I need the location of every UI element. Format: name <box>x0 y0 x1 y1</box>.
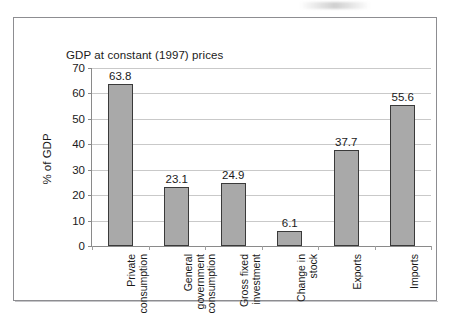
bar[interactable]: 6.1 <box>277 231 302 247</box>
bar[interactable]: 23.1 <box>164 187 189 246</box>
bar-value-label: 6.1 <box>282 217 298 229</box>
scan-artifact-smudge <box>300 2 370 9</box>
bar-value-label: 63.8 <box>109 70 131 82</box>
x-category-label: Private consumption <box>126 254 149 321</box>
gridline <box>92 68 431 69</box>
y-axis-line <box>91 68 92 246</box>
gridline <box>92 170 431 171</box>
y-tick-mark <box>88 221 92 222</box>
y-tick-label: 50 <box>72 113 85 125</box>
x-category-label: Change in stock <box>296 254 319 321</box>
x-category-label: Gross fixed investment <box>239 254 262 321</box>
y-tick-mark <box>88 195 92 196</box>
y-axis-title: % of GDP <box>41 24 55 114</box>
gridline <box>92 221 431 222</box>
bar[interactable]: 24.9 <box>221 183 246 246</box>
bar-value-label: 37.7 <box>335 136 357 148</box>
x-tick-mark <box>375 246 376 250</box>
x-tick-mark <box>205 246 206 250</box>
gridline <box>92 195 431 196</box>
y-tick-label: 10 <box>72 215 85 227</box>
y-tick-label: 40 <box>72 138 85 150</box>
x-tick-mark <box>318 246 319 250</box>
x-category-label: Exports <box>352 254 364 321</box>
y-tick-label: 60 <box>72 87 85 99</box>
y-tick-mark <box>88 144 92 145</box>
chart-figure-frame: GDP at constant (1997) prices % of GDP 7… <box>13 17 437 301</box>
bar-value-label: 23.1 <box>166 173 188 185</box>
gridline <box>92 93 431 94</box>
y-tick-mark <box>88 119 92 120</box>
y-tick-mark <box>88 68 92 69</box>
y-tick-mark <box>88 170 92 171</box>
plot-area: 706050403020100 63.823.124.96.137.755.6 … <box>92 68 431 246</box>
y-axis-title-text: % of GDP <box>41 114 53 204</box>
bar-value-label: 24.9 <box>222 169 244 181</box>
y-tick-label: 70 <box>72 62 85 74</box>
x-tick-mark <box>149 246 150 250</box>
y-tick-label: 0 <box>79 240 85 252</box>
gridline <box>92 144 431 145</box>
y-tick-label: 20 <box>72 189 85 201</box>
bar[interactable]: 55.6 <box>390 105 415 246</box>
gridline <box>92 119 431 120</box>
bar-value-label: 55.6 <box>392 91 414 103</box>
x-tick-mark <box>431 246 432 250</box>
bar[interactable]: 37.7 <box>334 150 359 246</box>
y-tick-label: 30 <box>72 164 85 176</box>
y-tick-mark <box>88 93 92 94</box>
x-category-label: Imports <box>409 254 421 321</box>
bar[interactable]: 63.8 <box>108 84 133 246</box>
x-tick-mark <box>262 246 263 250</box>
x-category-label: General government consumption <box>183 254 218 321</box>
chart-title: GDP at constant (1997) prices <box>66 49 223 61</box>
x-tick-mark <box>92 246 93 250</box>
